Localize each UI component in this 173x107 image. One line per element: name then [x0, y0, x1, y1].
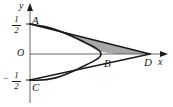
tick-label-negative-half-numerator: 1: [13, 71, 20, 80]
y-axis-label: y: [19, 1, 23, 11]
point-label-B: B: [104, 58, 111, 69]
x-axis-label: x: [158, 57, 162, 67]
tick-label-positive-half-numerator: 1: [13, 15, 20, 24]
origin-label: O: [17, 48, 24, 58]
y-axis-arrowhead: [27, 3, 33, 11]
line-segment-CD: [30, 54, 150, 80]
tick-label-positive-half-denominator: 2: [13, 26, 20, 35]
point-label-A: A: [32, 15, 39, 26]
coordinate-plot: [0, 0, 173, 107]
tick-label-negative-half-denominator: 2: [13, 82, 20, 91]
math-figure: y x O 1 2 − 1 2 A B C D: [0, 0, 173, 107]
line-segment-AD: [30, 24, 150, 54]
point-label-C: C: [32, 82, 39, 93]
point-label-D: D: [144, 57, 152, 68]
tick-label-positive-half: 1 2: [12, 15, 21, 35]
tick-label-negative-half-sign: −: [3, 74, 8, 83]
tick-label-negative-half: 1 2: [12, 71, 21, 91]
